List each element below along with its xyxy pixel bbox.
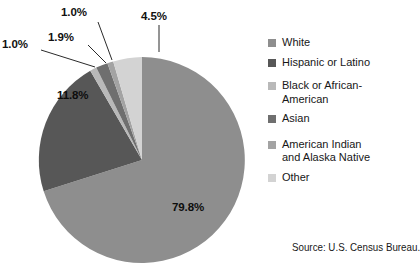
slice-label-white: 79.8% bbox=[172, 201, 204, 213]
callout-label-asian: 1.9% bbox=[48, 31, 74, 43]
legend-item-black-or-african-american[interactable]: Black or African- American bbox=[268, 79, 408, 106]
callout-label-black: 1.0% bbox=[2, 38, 28, 50]
legend-label-hispanic-or-latino: Hispanic or Latino bbox=[282, 56, 370, 70]
legend-swatch-icon-american-indian-and-alaska-native bbox=[268, 141, 276, 149]
leader-line-asian bbox=[88, 45, 106, 63]
chart-legend: White Hispanic or Latino Black or Africa… bbox=[268, 36, 408, 190]
legend-label-asian: Asian bbox=[282, 112, 310, 126]
source-note: Source: U.S. Census Bureau. bbox=[292, 241, 420, 253]
legend-swatch-icon-other bbox=[268, 174, 276, 182]
leader-line-amerindian bbox=[98, 22, 112, 60]
legend-label-american-indian-and-alaska-native: American Indian and Alaska Native bbox=[282, 138, 370, 165]
callout-label-amerindian: 1.0% bbox=[61, 6, 87, 18]
legend-item-hispanic-or-latino[interactable]: Hispanic or Latino bbox=[268, 56, 408, 70]
leader-line-black bbox=[41, 50, 95, 67]
legend-swatch-icon-black-or-african-american bbox=[268, 82, 276, 90]
legend-item-asian[interactable]: Asian bbox=[268, 112, 408, 126]
legend-item-white[interactable]: White bbox=[268, 36, 408, 50]
legend-label-black-or-african-american: Black or African- American bbox=[282, 79, 362, 106]
legend-swatch-icon-white bbox=[268, 39, 276, 47]
legend-label-other: Other bbox=[282, 171, 310, 185]
slice-label-hispanic: 11.8% bbox=[57, 89, 88, 101]
legend-item-other[interactable]: Other bbox=[268, 171, 408, 185]
callout-label-other: 4.5% bbox=[141, 10, 167, 22]
legend-label-white: White bbox=[282, 36, 310, 50]
legend-item-american-indian-and-alaska-native[interactable]: American Indian and Alaska Native bbox=[268, 138, 408, 165]
legend-swatch-icon-asian bbox=[268, 115, 276, 123]
legend-swatch-icon-hispanic-or-latino bbox=[268, 59, 276, 67]
